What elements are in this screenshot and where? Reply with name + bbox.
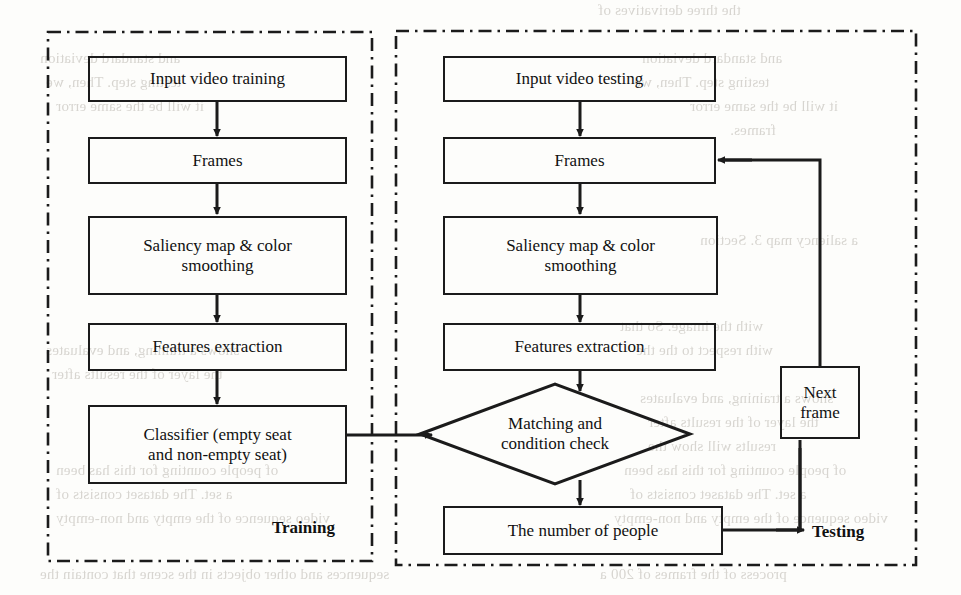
training-panel-label: Training <box>272 518 335 538</box>
node-label: Frames <box>550 151 608 171</box>
node-label-line-2: smoothing <box>502 256 659 276</box>
node-number-of-people[interactable]: The number of people <box>443 506 723 555</box>
node-label-line-1: Saliency map & color <box>139 236 296 256</box>
node-label: Features extraction <box>149 337 287 357</box>
edge-count-to-nextframe <box>723 448 800 530</box>
edge-nextframe-to-frames <box>724 160 820 366</box>
node-next-frame[interactable]: Next frame <box>780 366 860 439</box>
node-input-video-testing[interactable]: Input video testing <box>443 56 716 102</box>
node-label-line-2: smoothing <box>139 256 296 276</box>
node-label: Input video testing <box>512 69 647 89</box>
node-label-line-1: Saliency map & color <box>502 236 659 256</box>
node-label-line-1: Next <box>799 383 840 403</box>
node-label: Saliency map & color smoothing <box>135 236 300 275</box>
node-label-line-2: frame <box>796 403 844 423</box>
node-label: Features extraction <box>511 337 649 357</box>
decision-diamond-matching <box>420 384 690 484</box>
node-label: Saliency map & color smoothing <box>498 236 663 275</box>
node-features-extraction-testing[interactable]: Features extraction <box>443 323 716 371</box>
node-classifier-training[interactable]: Classifier (empty seat and non-empty sea… <box>88 405 347 484</box>
testing-panel-border <box>396 31 916 565</box>
node-saliency-smoothing-testing[interactable]: Saliency map & color smoothing <box>443 216 718 295</box>
node-label: Input video training <box>146 69 289 89</box>
node-frames-testing[interactable]: Frames <box>443 137 716 184</box>
node-frames-training[interactable]: Frames <box>88 137 347 184</box>
node-input-video-training[interactable]: Input video training <box>88 56 347 102</box>
node-label: The number of people <box>504 521 663 541</box>
node-label: Frames <box>188 151 246 171</box>
node-label: Classifier (empty seat and non-empty sea… <box>135 425 299 464</box>
testing-panel-label: Testing <box>812 522 864 542</box>
node-label-line-2: and non-empty seat) <box>139 445 295 465</box>
figure-canvas: the three derivatives of and standard de… <box>0 0 961 595</box>
node-features-extraction-training[interactable]: Features extraction <box>88 323 347 371</box>
node-saliency-smoothing-training[interactable]: Saliency map & color smoothing <box>88 216 347 295</box>
node-label-line-1: Classifier (empty seat <box>139 425 295 445</box>
